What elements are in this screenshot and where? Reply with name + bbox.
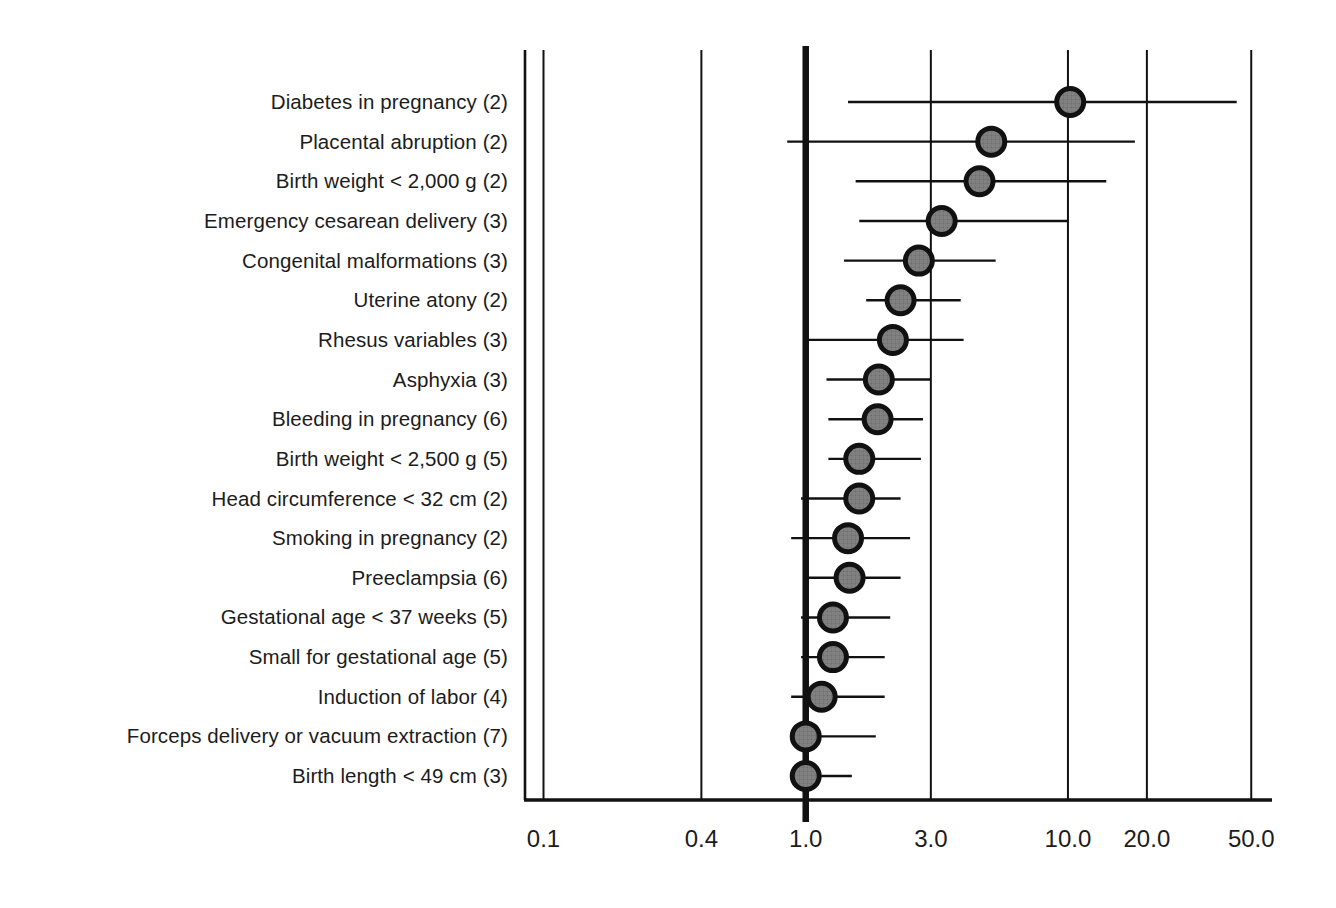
- estimate-marker[interactable]: [887, 287, 914, 314]
- x-tick-label: 50.0: [1228, 826, 1275, 852]
- estimate-marker[interactable]: [792, 723, 819, 750]
- estimate-marker[interactable]: [978, 128, 1005, 155]
- x-tick-label: 10.0: [1045, 826, 1092, 852]
- estimate-marker[interactable]: [865, 366, 892, 393]
- estimate-marker[interactable]: [879, 326, 906, 353]
- x-tick-label: 3.0: [914, 826, 947, 852]
- estimate-marker[interactable]: [846, 445, 873, 472]
- estimate-marker[interactable]: [1057, 89, 1084, 116]
- estimate-marker[interactable]: [819, 644, 846, 671]
- plot-svg: [0, 0, 1336, 908]
- forest-plot-canvas: [0, 0, 1336, 908]
- x-tick-label: 20.0: [1124, 826, 1171, 852]
- estimate-marker[interactable]: [966, 168, 993, 195]
- estimate-marker[interactable]: [819, 604, 846, 631]
- estimate-marker[interactable]: [808, 683, 835, 710]
- x-tick-label: 1.0: [789, 826, 822, 852]
- forest-plot-figure: Diabetes in pregnancy (2)Placental abrup…: [0, 0, 1336, 908]
- estimate-marker[interactable]: [836, 564, 863, 591]
- estimate-marker[interactable]: [905, 247, 932, 274]
- x-tick-label: 0.4: [685, 826, 718, 852]
- x-tick-label: 0.1: [527, 826, 560, 852]
- estimate-marker[interactable]: [928, 207, 955, 234]
- estimate-marker[interactable]: [792, 763, 819, 790]
- estimate-marker[interactable]: [835, 525, 862, 552]
- estimate-marker[interactable]: [864, 406, 891, 433]
- estimate-marker[interactable]: [846, 485, 873, 512]
